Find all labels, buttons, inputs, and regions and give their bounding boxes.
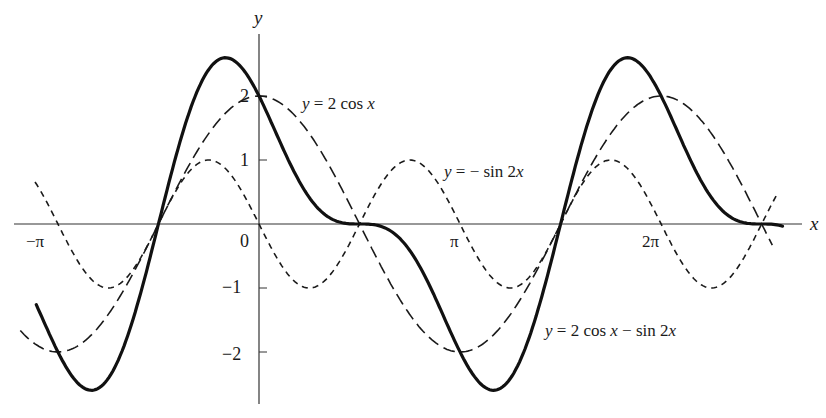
annotation-neg-sin-2x: y = − sin 2x xyxy=(444,163,524,180)
annotation-var-x: x xyxy=(516,162,524,181)
annotation-eq2: − sin 2 xyxy=(618,321,669,340)
function-plot xyxy=(0,0,826,418)
y-axis-label: y xyxy=(254,8,262,27)
y-tick-neg-1: −1 xyxy=(222,278,241,296)
y-tick-2: 2 xyxy=(240,87,249,105)
annotation-eq: = 2 cos xyxy=(310,94,368,113)
y-tick-neg-2: −2 xyxy=(222,345,241,363)
annotation-2cos-x: y = 2 cos x xyxy=(302,95,375,112)
x-axis-label: x xyxy=(810,214,818,233)
annotation-var-y: y xyxy=(545,321,553,340)
annotation-var-y: y xyxy=(444,162,452,181)
origin-label: 0 xyxy=(240,232,249,250)
x-tick-pi: π xyxy=(450,233,459,250)
annotation-var-y: y xyxy=(302,94,310,113)
annotation-eq: = − sin 2 xyxy=(452,162,517,181)
annotation-eq: = 2 cos xyxy=(553,321,611,340)
annotation-var-x: x xyxy=(367,94,375,113)
y-tick-1: 1 xyxy=(240,151,249,169)
annotation-sum: y = 2 cos x − sin 2x xyxy=(545,322,676,339)
x-tick-2pi: 2π xyxy=(642,233,659,250)
annotation-var-x2: x xyxy=(669,321,677,340)
x-tick-neg-pi: −π xyxy=(26,233,44,250)
annotation-var-x: x xyxy=(610,321,618,340)
